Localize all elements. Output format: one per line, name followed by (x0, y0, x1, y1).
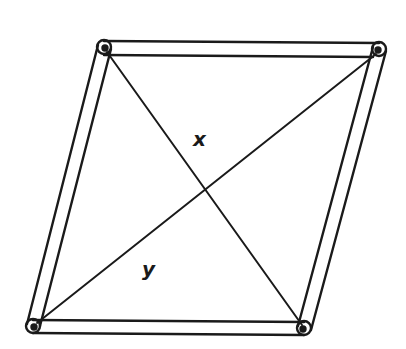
label-x: x (192, 127, 207, 151)
diagonal-x (107, 52, 302, 325)
diagonal-y (37, 54, 376, 323)
left-bar (27, 45, 111, 326)
diagram-svg: x y (0, 0, 406, 349)
label-y: y (142, 257, 156, 281)
bottom-bar (33, 320, 304, 335)
top-bar (104, 41, 379, 57)
right-bar (298, 47, 386, 330)
parallelogram-diagram: x y (0, 0, 406, 349)
